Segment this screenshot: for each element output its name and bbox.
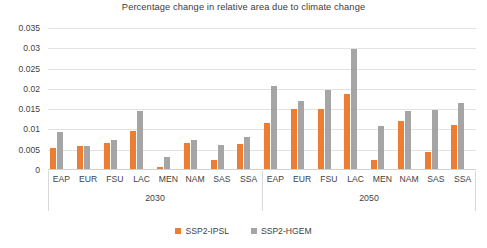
category-label-nam: NAM — [182, 174, 209, 184]
y-axis-tick-label: 0.015 — [18, 104, 40, 114]
bar — [318, 109, 324, 170]
bar — [184, 143, 190, 170]
axis-separator — [475, 189, 476, 211]
category-label-eap: EAP — [48, 174, 75, 184]
bars-layer — [48, 28, 476, 170]
bar — [164, 157, 170, 170]
legend-label: SSP2-HGEM — [261, 226, 312, 236]
axis-separator — [48, 189, 49, 211]
bar — [351, 49, 357, 170]
bar — [451, 125, 457, 170]
bar — [50, 148, 56, 170]
group-label-2030: 2030 — [48, 193, 262, 203]
bar-chart: Percentage change in relative area due t… — [0, 0, 487, 248]
category-label-eur: EUR — [75, 174, 102, 184]
bar — [237, 144, 243, 170]
y-axis-tick-labels: 00.0050.010.0150.020.0250.030.035 — [0, 28, 44, 170]
category-label-ssa: SSA — [449, 174, 476, 184]
bar-group — [128, 28, 155, 170]
category-label-fsu: FSU — [316, 174, 343, 184]
bar — [398, 121, 404, 170]
y-axis-tick-label: 0 — [35, 165, 40, 175]
category-label-sas: SAS — [209, 174, 236, 184]
category-label-ssa: SSA — [235, 174, 262, 184]
bar — [57, 132, 63, 170]
axis-separator — [262, 189, 263, 211]
category-label-men: MEN — [155, 174, 182, 184]
bar-group — [48, 28, 75, 170]
bar — [271, 86, 277, 170]
bar-group — [289, 28, 316, 170]
legend-swatch-orange — [175, 228, 181, 234]
bar — [325, 90, 331, 170]
bar — [344, 94, 350, 170]
category-label-fsu: FSU — [102, 174, 129, 184]
legend-swatch-gray — [251, 228, 257, 234]
bar — [432, 110, 438, 170]
legend-item[interactable]: SSP2-HGEM — [251, 226, 312, 236]
bar-group — [75, 28, 102, 170]
bar — [218, 145, 224, 170]
bar-group — [182, 28, 209, 170]
category-label-lac: LAC — [342, 174, 369, 184]
axis-separator — [48, 171, 49, 189]
category-label-eap: EAP — [262, 174, 289, 184]
bar-group — [449, 28, 476, 170]
bar — [405, 111, 411, 170]
group-label-2050: 2050 — [262, 193, 476, 203]
bar — [291, 109, 297, 170]
zero-axis-line — [48, 169, 476, 170]
bar-group — [396, 28, 423, 170]
axis-separator — [475, 171, 476, 189]
bar — [130, 131, 136, 170]
bar-group — [423, 28, 450, 170]
y-axis-tick-label: 0.01 — [23, 124, 40, 134]
bar — [264, 123, 270, 170]
bar — [298, 101, 304, 170]
bar-group — [235, 28, 262, 170]
y-axis-tick-label: 0.02 — [23, 84, 40, 94]
bar — [191, 140, 197, 170]
y-axis-tick-label: 0.025 — [18, 64, 40, 74]
bar — [458, 103, 464, 170]
chart-legend: SSP2-IPSLSSP2-HGEM — [0, 226, 487, 236]
bar-group — [155, 28, 182, 170]
chart-title: Percentage change in relative area due t… — [0, 2, 487, 12]
legend-item[interactable]: SSP2-IPSL — [175, 226, 228, 236]
bar-group — [342, 28, 369, 170]
category-label-eur: EUR — [289, 174, 316, 184]
axis-separator — [262, 171, 263, 189]
bar — [244, 137, 250, 170]
y-axis-tick-label: 0.005 — [18, 145, 40, 155]
bar — [425, 152, 431, 170]
bar-group — [316, 28, 343, 170]
bar — [104, 143, 110, 170]
y-axis-tick-label: 0.03 — [23, 43, 40, 53]
bar-group — [262, 28, 289, 170]
category-label-lac: LAC — [128, 174, 155, 184]
category-axis: EAPEURFSULACMENNAMSASSSAEAPEURFSULACMENN… — [48, 171, 476, 189]
bar — [111, 140, 117, 170]
bar-group — [369, 28, 396, 170]
bar — [378, 126, 384, 170]
bar — [137, 111, 143, 170]
bar-group — [102, 28, 129, 170]
bar — [77, 146, 83, 170]
y-axis-tick-label: 0.035 — [18, 23, 40, 33]
bar-group — [209, 28, 236, 170]
category-label-sas: SAS — [423, 174, 450, 184]
category-label-nam: NAM — [396, 174, 423, 184]
legend-label: SSP2-IPSL — [185, 226, 228, 236]
bar — [84, 146, 90, 170]
plot-area — [48, 28, 476, 170]
category-label-men: MEN — [369, 174, 396, 184]
group-axis: 20302050 — [48, 189, 476, 211]
